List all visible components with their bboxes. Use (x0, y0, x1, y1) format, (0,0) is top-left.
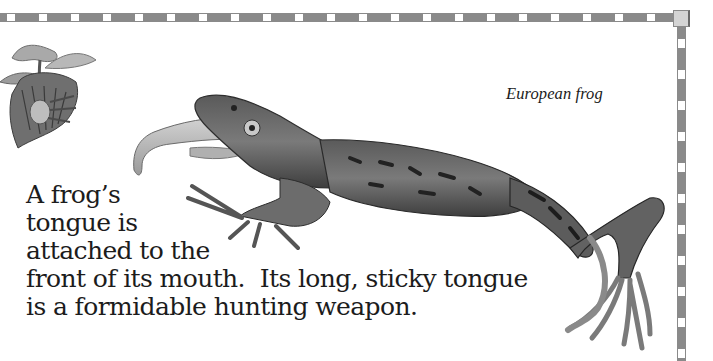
body-line: is a formidable hunting weapon. (26, 293, 528, 321)
border-square (455, 14, 463, 21)
border-square (71, 14, 79, 21)
body-line: tongue is (26, 209, 528, 237)
border-square (39, 14, 47, 21)
border-square (7, 14, 15, 21)
border-square (583, 14, 591, 21)
border-square (295, 14, 303, 21)
border-square (678, 101, 685, 110)
body-line: attached to the (26, 237, 528, 265)
border-square (423, 14, 431, 21)
border-square (263, 14, 271, 21)
border-square (678, 287, 685, 296)
body-line: A frog’s (26, 181, 528, 209)
border-square (678, 225, 685, 234)
body-paragraph: A frog’stongue isattached to thefront of… (26, 181, 528, 321)
border-square (678, 132, 685, 141)
figure-caption: European frog (506, 84, 603, 104)
border-square (678, 349, 685, 358)
border-square (678, 39, 685, 48)
border-square (678, 163, 685, 172)
border-square (135, 14, 143, 21)
border-square (231, 14, 239, 21)
border-square (487, 14, 495, 21)
border-square (678, 318, 685, 327)
top-border-bar (0, 13, 678, 22)
right-border-bar (677, 22, 686, 361)
border-square (327, 14, 335, 21)
border-square (678, 256, 685, 265)
border-square (103, 14, 111, 21)
border-square (615, 14, 623, 21)
border-square (391, 14, 399, 21)
border-square (551, 14, 559, 21)
body-line: front of its mouth. Its long, sticky ton… (26, 265, 528, 293)
border-square (519, 14, 527, 21)
border-corner-square (673, 10, 690, 27)
flower-illustration (0, 30, 100, 155)
border-square (647, 14, 655, 21)
border-square (359, 14, 367, 21)
border-square (678, 70, 685, 79)
border-square (678, 194, 685, 203)
border-square (199, 14, 207, 21)
border-square (167, 14, 175, 21)
